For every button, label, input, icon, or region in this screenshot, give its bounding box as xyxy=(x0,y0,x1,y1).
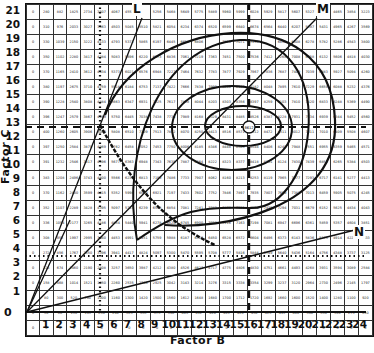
ray-to-N xyxy=(27,230,355,312)
maximum-value: 8612 xyxy=(244,126,253,130)
chart-overlay: 8612 xyxy=(0,0,374,353)
marker-L: L xyxy=(132,2,142,16)
marker-N: N xyxy=(353,225,365,239)
ray-to-M xyxy=(27,18,317,312)
contour-wide xyxy=(105,33,335,226)
ray-steep xyxy=(27,220,70,312)
contour-outer xyxy=(133,40,309,240)
marker-M: M xyxy=(316,2,330,16)
